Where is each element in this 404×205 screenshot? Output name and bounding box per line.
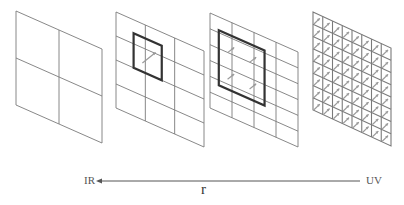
scale-arrowhead-icon: [96, 179, 102, 184]
ir-label: IR: [84, 174, 95, 186]
panel-2-grid-line: [116, 84, 204, 123]
panel-2-highlight-square: [134, 33, 162, 80]
scale-r-label: r: [201, 181, 206, 198]
lattice-figure: [0, 0, 404, 205]
diagram-canvas: IR UV r: [0, 0, 404, 205]
panel-2-grid-line: [116, 36, 204, 75]
uv-label: UV: [366, 174, 382, 186]
